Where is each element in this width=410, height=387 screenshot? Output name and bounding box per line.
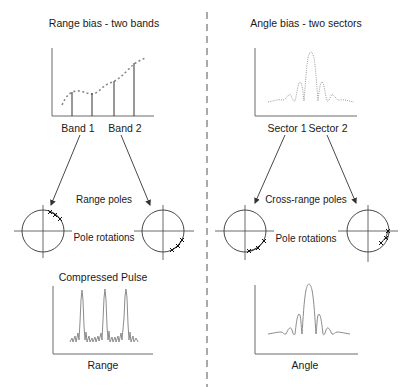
unit-circle-sector-1 [215,205,274,260]
left-panel-title: Range bias - two bands [49,17,159,29]
arrow-sector-1 [255,135,285,203]
cross-range-poles-label: Cross-range poles [265,194,347,205]
compressed-pulse-title: Compressed Pulse [59,271,148,283]
sector-2-label: Sector 2 [308,122,347,134]
unit-circle-band-1 [14,205,72,258]
range-axis-label: Range [88,359,119,371]
angle-pattern-plot [255,284,358,354]
left-pole-rotations-label: Pole rotations [73,232,134,243]
right-pole-rotations-label: Pole rotations [275,233,336,244]
angle-sector-plot [255,48,357,116]
range-poles-label: Range poles [76,194,132,205]
band-spectrum-plot [52,48,154,116]
compressed-pulse-plot [53,286,153,354]
unit-circle-sector-2 [338,205,398,262]
arrow-sector-2 [327,135,356,203]
right-panel: Angle bias - two sectors Sector 1 Sector… [215,17,398,371]
left-panel: Range bias - two bands Band 1 Band 2 Ran… [14,17,194,371]
band-1-label: Band 1 [61,122,94,134]
unit-circle-band-2 [134,205,194,260]
angle-axis-label: Angle [292,359,319,371]
band-2-label: Band 2 [108,122,141,134]
x-mark-icon [170,238,184,252]
x-mark-icon [48,210,62,221]
right-panel-title: Angle bias - two sectors [250,17,361,29]
sector-1-label: Sector 1 [267,122,306,134]
diagram-canvas: Range bias - two bands Band 1 Band 2 Ran… [0,0,410,387]
